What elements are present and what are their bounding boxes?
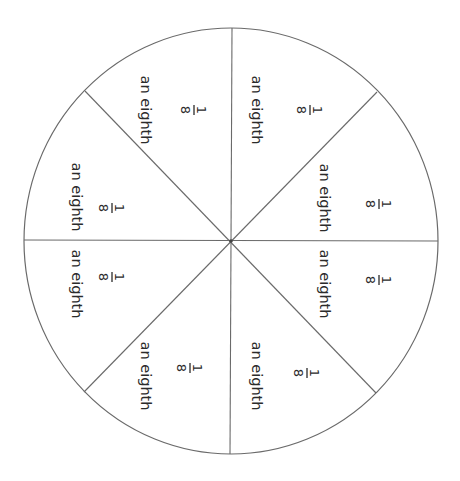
- sector-word-label: an eighth: [317, 250, 333, 319]
- fraction-numerator: 1: [194, 106, 209, 114]
- fraction-numerator: 1: [112, 273, 127, 281]
- fraction-denominator: 8: [363, 276, 378, 284]
- fraction-numerator: 1: [310, 106, 325, 114]
- fraction-numerator: 1: [379, 276, 394, 284]
- sector-fraction: 18: [363, 275, 394, 285]
- fraction-numerator: 1: [190, 364, 205, 372]
- fraction-numerator: 1: [379, 200, 394, 208]
- fraction-wheel: an eighth18an eighth18an eighth18an eigh…: [0, 0, 460, 481]
- sector-word-label: an eighth: [69, 163, 85, 232]
- fraction-denominator: 8: [291, 369, 306, 377]
- sector-fraction: 18: [291, 368, 322, 378]
- sector-fraction: 18: [96, 203, 127, 213]
- sector-word-label: an eighth: [138, 342, 154, 411]
- fraction-denominator: 8: [174, 364, 189, 372]
- sector-fraction: 18: [178, 105, 209, 115]
- sector-word-label: an eighth: [317, 164, 333, 233]
- fraction-denominator: 8: [96, 273, 111, 281]
- center-point: [229, 239, 233, 243]
- sector-word-label: an eighth: [249, 342, 265, 411]
- fraction-denominator: 8: [96, 204, 111, 212]
- fraction-denominator: 8: [363, 200, 378, 208]
- fraction-denominator: 8: [294, 106, 309, 114]
- sector-word-label: an eighth: [138, 76, 154, 145]
- sector-word-label: an eighth: [69, 250, 85, 319]
- fraction-denominator: 8: [178, 106, 193, 114]
- sector-fraction: 18: [294, 105, 325, 115]
- sector-fraction: 18: [96, 272, 127, 282]
- fraction-numerator: 1: [112, 204, 127, 212]
- sector-word-label: an eighth: [249, 76, 265, 145]
- sector-fraction: 18: [363, 199, 394, 209]
- sector-fraction: 18: [174, 363, 205, 373]
- fraction-numerator: 1: [307, 369, 322, 377]
